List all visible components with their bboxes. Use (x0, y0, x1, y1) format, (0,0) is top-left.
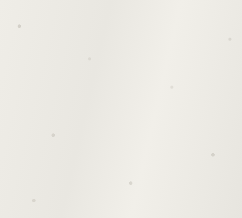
compass-north: N (114, 5, 121, 13)
top-dimension-3: 40 (114, 23, 124, 30)
lot-number-8: 8 (104, 146, 134, 157)
top-dimension-4: 40 (153, 23, 163, 30)
left-depth-south: 100 (23, 142, 30, 158)
lot-number-1: 1 (29, 58, 59, 69)
scan-smudge (16, 78, 25, 104)
lot-number-7: 7 (143, 146, 173, 157)
lot-number-6: 6 (180, 146, 210, 157)
bottom-dimension-4: 40 (153, 186, 163, 193)
lot-number-10: 10 (30, 146, 60, 157)
lot-number-9: 9 (66, 146, 96, 157)
top-dimension-1: 40 (35, 23, 45, 30)
compass-south: S (115, 200, 121, 208)
lot-number-5: 5 (180, 58, 210, 69)
compass-east: E (223, 99, 229, 107)
bottom-dimension-5: 40 (192, 186, 202, 193)
compass-west: W (7, 99, 16, 107)
lot-number-2: 2 (65, 58, 95, 69)
lot-number-4: 4 (143, 58, 173, 69)
bottom-dimension-3: 40 (114, 186, 124, 193)
scan-smudge (3, 206, 17, 214)
top-dimension-5: 40 (192, 23, 202, 30)
scan-smudge (17, 158, 25, 180)
bottom-dimension-2: 40 (74, 186, 84, 193)
bottom-dimension-1: 40 (35, 186, 45, 193)
top-dimension-2: 40 (74, 23, 84, 30)
lot-number-3: 3 (104, 58, 134, 69)
